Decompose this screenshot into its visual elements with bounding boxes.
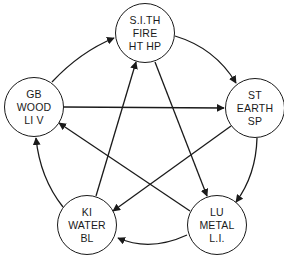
node-wood: GB WOOD LI V bbox=[4, 77, 64, 137]
node-earth-line-3: SP bbox=[248, 115, 262, 128]
edge-water-to-fire bbox=[96, 62, 136, 196]
node-water-line-3: BL bbox=[80, 232, 93, 245]
node-wood-line-3: LI V bbox=[24, 114, 43, 127]
node-water-line-2: WATER bbox=[68, 219, 106, 232]
node-metal-line-2: METAL bbox=[199, 219, 234, 232]
edge-wood-to-fire bbox=[52, 38, 114, 82]
node-wood-line-2: WOOD bbox=[17, 101, 52, 114]
node-fire-line-3: HT HP bbox=[129, 40, 161, 53]
node-fire-line-1: S.I.TH bbox=[130, 14, 161, 27]
node-fire: S.I.TH FIRE HT HP bbox=[115, 3, 175, 63]
node-metal-line-3: L.I. bbox=[209, 232, 224, 245]
node-wood-line-1: GB bbox=[26, 88, 42, 101]
node-water: KI WATER BL bbox=[57, 195, 117, 255]
node-metal: LU METAL L.I. bbox=[187, 195, 247, 255]
node-metal-line-1: LU bbox=[210, 206, 224, 219]
node-earth-line-1: ST bbox=[248, 89, 262, 102]
edge-wood-to-earth bbox=[64, 107, 224, 108]
edge-water-to-wood bbox=[36, 138, 63, 207]
node-fire-line-2: FIRE bbox=[133, 27, 158, 40]
node-earth-line-2: EARTH bbox=[237, 102, 273, 115]
edge-earth-to-metal bbox=[236, 138, 257, 202]
node-water-line-1: KI bbox=[82, 206, 92, 219]
node-earth: ST EARTH SP bbox=[225, 78, 284, 138]
edge-fire-to-earth bbox=[175, 36, 236, 83]
edge-metal-to-water bbox=[118, 235, 187, 244]
